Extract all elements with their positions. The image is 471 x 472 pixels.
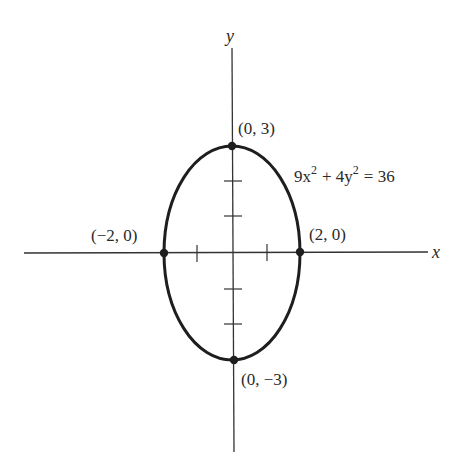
label-bottom: (0, −3) bbox=[241, 370, 287, 389]
eq-a-exp: 2 bbox=[311, 163, 317, 177]
equation-label: 9x2+ 4y2= 36 bbox=[294, 163, 395, 186]
eq-b-exp: 2 bbox=[353, 163, 359, 177]
point-bottom bbox=[230, 356, 238, 364]
eq-a: 9x bbox=[294, 167, 312, 186]
point-right bbox=[296, 248, 304, 256]
label-right: (2, 0) bbox=[309, 225, 346, 244]
point-top bbox=[228, 142, 236, 150]
x-axis bbox=[24, 252, 428, 253]
point-left bbox=[160, 249, 168, 257]
x-axis-label: x bbox=[431, 242, 440, 262]
ellipse-graph: x y (0, 3) (0, −3) (−2, 0) (2, 0) 9x2+ 4… bbox=[0, 0, 471, 472]
eq-rhs: = 36 bbox=[364, 167, 395, 186]
y-axis-label: y bbox=[224, 26, 234, 46]
label-top: (0, 3) bbox=[238, 119, 275, 138]
eq-plus: + 4y bbox=[322, 167, 353, 186]
label-left: (−2, 0) bbox=[91, 226, 137, 245]
y-axis bbox=[232, 48, 234, 452]
